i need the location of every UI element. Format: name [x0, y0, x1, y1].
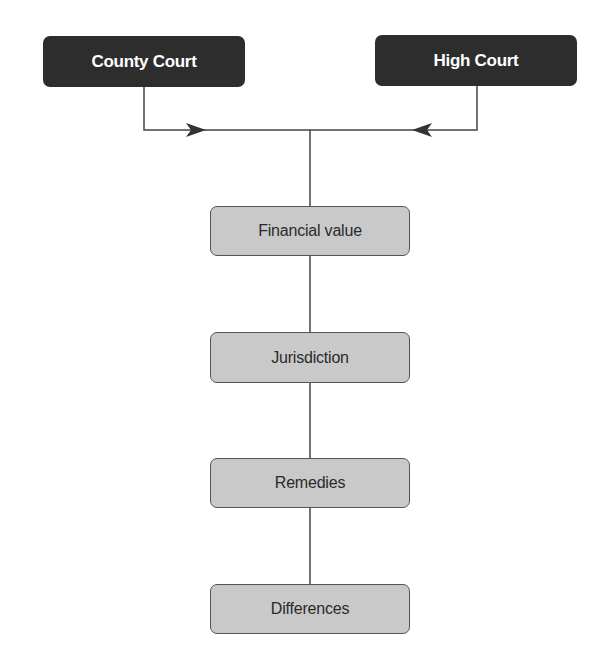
county-court-label: County Court — [92, 52, 197, 72]
remedies-label: Remedies — [275, 474, 345, 492]
remedies-box: Remedies — [210, 458, 410, 508]
financial-value-label: Financial value — [258, 222, 362, 240]
jurisdiction-label: Jurisdiction — [271, 349, 349, 367]
high-court-label: High Court — [434, 51, 519, 71]
county-court-connector — [144, 87, 310, 130]
county-court-box: County Court — [43, 36, 245, 87]
differences-label: Differences — [271, 600, 349, 618]
differences-box: Differences — [210, 584, 410, 634]
jurisdiction-box: Jurisdiction — [210, 332, 410, 383]
flowchart-diagram: County Court High Court Financial value … — [0, 0, 605, 668]
financial-value-box: Financial value — [210, 206, 410, 256]
high-court-connector — [310, 86, 477, 130]
high-court-box: High Court — [375, 35, 577, 86]
